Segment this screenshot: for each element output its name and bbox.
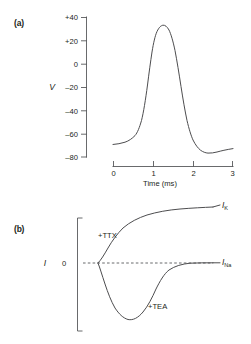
potassium-current-label: IK [222,200,228,211]
panel-a-ytick-20p: +20 [65,37,78,46]
panel-a-ytick-40p: +40 [65,13,78,22]
panel-a: (a) +40 +20 0 –20 –40 –60 –80 V [14,13,235,188]
panel-a-xtick-3: 3 [230,169,234,178]
sodium-current-trace [98,263,213,320]
two-panel-figure: (a) +40 +20 0 –20 –40 –60 –80 V [0,0,251,344]
sodium-current-label: INa [222,257,232,268]
potassium-label-leader [213,205,220,207]
panel-a-ytick-40n: –40 [65,107,78,116]
panel-b-zero-label: 0 [62,259,66,268]
panel-a-ytick-20n: –20 [65,83,78,92]
panel-a-y-ticks [82,18,87,158]
panel-a-xtick-0: 0 [111,169,115,178]
action-potential-trace [113,25,233,153]
sodium-current-subscript: Na [224,262,232,268]
tea-annotation: +TEA [148,302,168,311]
figure-container: (a) +40 +20 0 –20 –40 –60 –80 V [0,0,251,344]
panel-b-label: (b) [14,224,25,234]
panel-b: (b) I 0 IK INa +TTX +TEA [14,200,232,331]
panel-a-label: (a) [14,18,24,28]
panel-a-ytick-80n: –80 [65,153,78,162]
panel-b-y-axis-title: I [44,258,47,268]
panel-b-y-axis-bracket [78,218,83,331]
potassium-current-subscript: K [224,205,228,211]
ttx-annotation: +TTX [98,231,117,240]
panel-a-ytick-60n: –60 [65,130,78,139]
panel-a-xtick-1: 1 [151,169,155,178]
panel-a-y-axis-title: V [49,82,56,92]
panel-a-xtick-2: 2 [191,169,195,178]
panel-a-ytick-0: 0 [74,60,78,69]
panel-a-x-ticks [114,162,233,167]
panel-a-x-axis-title: Time (ms) [143,179,177,188]
